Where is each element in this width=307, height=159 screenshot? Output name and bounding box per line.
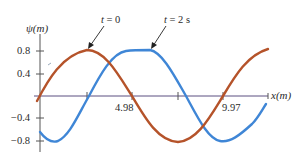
y-tick-label-0.8: 0.8 <box>17 46 30 57</box>
annotation-arrow-t0 <box>90 26 104 46</box>
y-axis-label: ψ(m) <box>26 23 48 34</box>
y-tick-label-neg0.8: −0.8 <box>11 136 30 147</box>
y-axis-label-text: ψ(m) <box>26 22 48 34</box>
y-tick-label-neg0.4: −0.4 <box>11 113 30 124</box>
annotation-arrowhead-t0 <box>88 42 94 49</box>
annotation-t2s: t = 2 s <box>164 15 190 26</box>
x-axis-label: x(m) <box>271 90 291 101</box>
annotation-arrow-t2s <box>153 26 166 46</box>
x-tick-label-9.97: 9.97 <box>222 103 240 114</box>
y-tick-label-0.4: 0.4 <box>17 69 30 80</box>
annotation-t0: t = 0 <box>101 15 120 26</box>
x-tick-label-4.98: 4.98 <box>115 103 133 114</box>
stray-mark <box>48 63 51 65</box>
annotation-arrowhead-t2s <box>151 42 157 49</box>
